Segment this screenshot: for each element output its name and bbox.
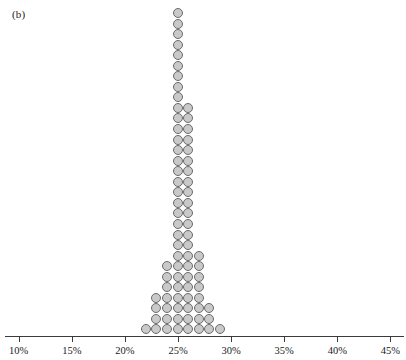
x-axis-tick-label: 10% [9, 345, 28, 356]
x-axis-tick [337, 337, 338, 342]
x-axis-tick-label: 15% [62, 345, 81, 356]
dot-plot-figure: (b) 10%15%20%25%30%35%40%45% [0, 0, 406, 360]
x-axis-tick-label: 40% [328, 345, 347, 356]
x-axis: 10%15%20%25%30%35%40%45% [0, 0, 406, 360]
x-axis-tick [231, 337, 232, 342]
x-axis-tick [390, 337, 391, 342]
x-axis-tick [72, 337, 73, 342]
plot-area: 10%15%20%25%30%35%40%45% [0, 0, 406, 360]
x-axis-tick-label: 25% [168, 345, 187, 356]
x-axis-tick [19, 337, 20, 342]
x-axis-tick-label: 30% [221, 345, 240, 356]
x-axis-tick-label: 35% [275, 345, 294, 356]
x-axis-tick-label: 20% [115, 345, 134, 356]
axis-line [5, 336, 405, 337]
x-axis-tick [284, 337, 285, 342]
x-axis-tick [125, 337, 126, 342]
x-axis-tick [178, 337, 179, 342]
x-axis-tick-label: 45% [381, 345, 400, 356]
